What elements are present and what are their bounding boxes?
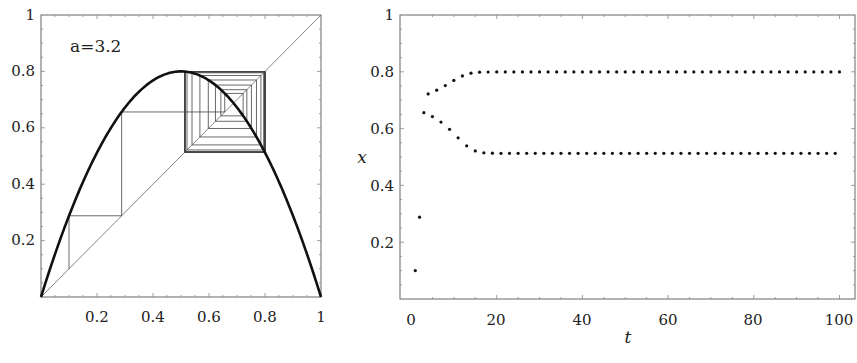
data-point (607, 70, 610, 73)
left-xtick-label: 1 (316, 308, 326, 326)
y-axis-label: x (357, 147, 367, 167)
data-point (482, 151, 485, 154)
data-point (752, 70, 755, 73)
data-point (829, 70, 832, 73)
x-axis-label: t (625, 327, 632, 347)
data-point (444, 84, 447, 87)
data-point (748, 152, 751, 155)
right-xtick-label: 100 (825, 311, 854, 329)
right-y-tick-labels: 0.2 0.4 0.6 0.8 1 (370, 6, 394, 252)
data-point (474, 149, 477, 152)
data-point (534, 152, 537, 155)
data-point (598, 70, 601, 73)
data-point (504, 70, 507, 73)
data-point (808, 152, 811, 155)
data-point (761, 70, 764, 73)
data-point (637, 152, 640, 155)
data-point (491, 152, 494, 155)
data-point (624, 70, 627, 73)
data-point (722, 152, 725, 155)
right-xtick-label: 60 (658, 311, 677, 329)
data-point (538, 70, 541, 73)
data-point (782, 152, 785, 155)
data-point (602, 152, 605, 155)
data-point (461, 74, 464, 77)
data-point (671, 152, 674, 155)
data-point (786, 70, 789, 73)
data-point (478, 71, 481, 74)
logistic-curve (41, 71, 321, 297)
right-ytick-label: 0.2 (370, 234, 394, 252)
data-point (641, 70, 644, 73)
data-point (448, 128, 451, 131)
data-point (465, 144, 468, 147)
data-point (812, 70, 815, 73)
data-point (568, 152, 571, 155)
data-point (457, 136, 460, 139)
data-point (739, 152, 742, 155)
data-point (414, 269, 417, 272)
right-ticks (400, 15, 855, 299)
right-xtick-label: 40 (572, 311, 591, 329)
data-point (547, 70, 550, 73)
data-point (816, 152, 819, 155)
data-point (821, 70, 824, 73)
left-xtick-label: 0.8 (253, 308, 277, 326)
data-point (632, 70, 635, 73)
left-ytick-label: 1 (25, 6, 35, 24)
data-point (529, 70, 532, 73)
data-point (564, 70, 567, 73)
data-point (559, 152, 562, 155)
right-ytick-label: 0.6 (370, 120, 394, 138)
data-point (499, 152, 502, 155)
data-point (791, 152, 794, 155)
data-point (692, 70, 695, 73)
data-point (769, 70, 772, 73)
data-point (542, 152, 545, 155)
left-ytick-label: 0.2 (11, 231, 35, 249)
data-point (744, 70, 747, 73)
data-point (658, 70, 661, 73)
right-xtick-label: 20 (486, 311, 505, 329)
left-y-tick-labels: 0.2 0.4 0.6 0.8 1 (11, 6, 35, 249)
data-point (611, 152, 614, 155)
data-point (709, 70, 712, 73)
data-point (594, 152, 597, 155)
data-point (439, 120, 442, 123)
data-point (667, 70, 670, 73)
parameter-annotation: a=3.2 (70, 36, 121, 56)
data-point (679, 152, 682, 155)
data-point (431, 115, 434, 118)
data-point (718, 70, 721, 73)
data-point (825, 152, 828, 155)
data-point (731, 152, 734, 155)
data-point (795, 70, 798, 73)
data-point (834, 152, 837, 155)
data-point (628, 152, 631, 155)
data-point (838, 70, 841, 73)
data-point (701, 70, 704, 73)
right-ytick-label: 0.4 (370, 177, 394, 195)
data-point (799, 152, 802, 155)
left-ytick-label: 0.4 (11, 175, 35, 193)
data-point (688, 152, 691, 155)
data-point (705, 152, 708, 155)
data-point (697, 152, 700, 155)
cobweb-plot: a=3.2 0.2 0.4 0.6 0.8 1 0.2 0.4 0.6 0.8 … (11, 6, 326, 326)
left-ytick-label: 0.8 (11, 62, 35, 80)
data-point (495, 70, 498, 73)
data-point (422, 111, 425, 114)
data-point (525, 152, 528, 155)
figure: a=3.2 0.2 0.4 0.6 0.8 1 0.2 0.4 0.6 0.8 … (0, 0, 857, 363)
data-point (435, 89, 438, 92)
identity-diagonal (41, 15, 321, 297)
data-point (512, 70, 515, 73)
time-series-points (414, 70, 841, 272)
right-ytick-label: 1 (384, 6, 394, 24)
data-point (551, 152, 554, 155)
right-xtick-label: 80 (743, 311, 762, 329)
time-series-plot: 0 20 40 60 80 100 0.2 0.4 0.6 0.8 1 t x (357, 6, 855, 347)
data-point (487, 70, 490, 73)
right-plot-frame (400, 15, 855, 299)
data-point (804, 70, 807, 73)
